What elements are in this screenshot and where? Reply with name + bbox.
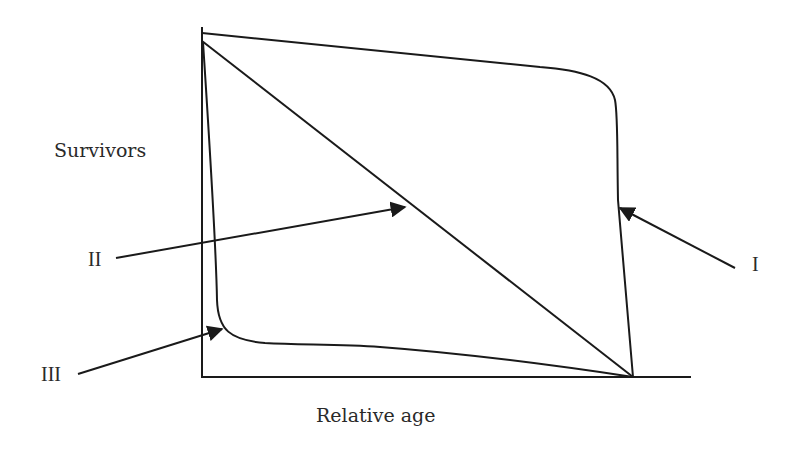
curve-label-type-2: II [88,249,101,269]
arrow-type-3 [78,329,222,374]
x-axis-label: Relative age [316,406,435,425]
curve-label-type-1: I [752,254,759,274]
curve-type-2 [202,41,633,377]
arrow-type-1 [620,208,735,268]
curve-label-type-3: III [41,364,61,384]
survivorship-diagram [0,0,797,451]
arrow-type-2 [116,207,405,258]
y-axis-label: Survivors [54,141,146,160]
